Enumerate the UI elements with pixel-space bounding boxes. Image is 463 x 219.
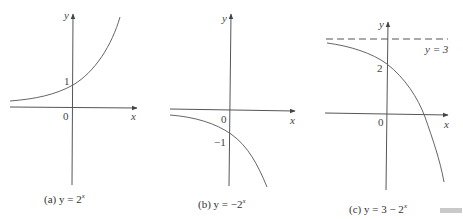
graph-c-intercept-label: 2: [377, 62, 383, 74]
graph-c-caption-exponent: x: [403, 202, 408, 210]
graph-b-x-label: x: [289, 114, 295, 126]
graph-b: y x 0 −1 (b) y = −2x: [170, 12, 295, 211]
graph-a-caption-exponent: x: [81, 192, 86, 200]
graph-b-y-label: y: [221, 12, 227, 24]
graph-a: y x 0 1 (a) y = 2x: [10, 9, 137, 206]
graph-a-x-axis: [10, 107, 137, 108]
graph-b-y-axis: [229, 14, 231, 186]
graph-b-curve: [170, 115, 267, 187]
graph-a-caption-text: (a) y = 2: [44, 193, 82, 206]
graph-b-caption: (b) y = −2x: [198, 197, 246, 211]
figure-canvas: y x 0 1 (a) y = 2x y x 0 −1 (b) y = −2x …: [0, 0, 463, 219]
graph-c-x-label: x: [443, 118, 449, 130]
graph-a-intercept-label: 1: [64, 75, 70, 87]
graph-a-curve: [10, 17, 120, 101]
graph-a-caption: (a) y = 2x: [44, 192, 86, 206]
graph-a-origin-label: 0: [63, 110, 69, 122]
graph-b-caption-exponent: x: [241, 197, 246, 205]
graph-b-x-axis: [170, 109, 295, 111]
graph-c: y x 0 2 y = 3 (c) y = 3 − 2x: [325, 18, 449, 216]
graph-c-y-axis: [386, 22, 388, 190]
graph-b-caption-text: (b) y = −2: [198, 198, 242, 211]
graph-c-caption: (c) y = 3 − 2x: [349, 202, 408, 216]
graph-b-intercept-label: −1: [214, 136, 226, 148]
graph-a-y-axis: [72, 14, 73, 185]
graph-a-y-label: y: [63, 9, 69, 21]
graph-c-y-label: y: [378, 18, 384, 30]
graph-b-origin-label: 0: [221, 113, 227, 125]
graph-c-origin-label: 0: [378, 116, 384, 128]
graph-c-caption-text: (c) y = 3 − 2: [349, 203, 404, 216]
gray-marker: [440, 208, 462, 213]
graph-c-curve: [327, 43, 444, 182]
graph-a-x-label: x: [130, 110, 136, 122]
graph-c-asymptote-label: y = 3: [424, 43, 449, 55]
